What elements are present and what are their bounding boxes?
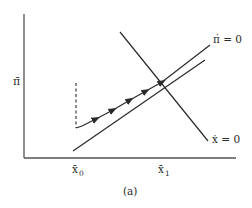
pi-dot-zero-label: π̇ = 0	[213, 33, 242, 45]
phase-diagram: π̄ π̇ = 0 ẋ = 0 x̄ 0 x̄ 1 (a)	[0, 0, 252, 208]
svg-text:0: 0	[79, 169, 84, 178]
pi-dot-zero-line	[162, 45, 210, 82]
x-tick-x0: x̄ 0	[72, 163, 84, 178]
x-tick-x1: x̄ 1	[158, 163, 170, 178]
svg-text:x̄: x̄	[72, 163, 78, 175]
svg-text:1: 1	[165, 169, 170, 178]
adjustment-path	[76, 82, 162, 128]
saddle-path-line	[73, 60, 205, 151]
x-dot-zero-label: ẋ = 0	[212, 133, 240, 145]
svg-text:x̄: x̄	[158, 163, 164, 175]
x-dot-zero-line	[120, 32, 208, 141]
y-axis-label: π̄	[13, 75, 20, 88]
figure-caption: (a)	[123, 185, 137, 197]
